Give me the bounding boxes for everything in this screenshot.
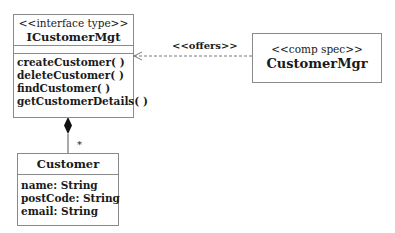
operation: deleteCustomer( ) bbox=[17, 69, 133, 82]
interface-name: ICustomerMgt bbox=[14, 30, 133, 44]
interface-stereotype: <<interface type>> bbox=[14, 17, 133, 30]
interface-attributes bbox=[14, 46, 133, 54]
attribute: postCode: String bbox=[21, 192, 118, 205]
offers-label: <<offers>> bbox=[172, 40, 238, 51]
component-name: CustomerMgr bbox=[253, 56, 381, 72]
interface-box: <<interface type>> ICustomerMgt createCu… bbox=[13, 14, 134, 118]
attribute: name: String bbox=[21, 179, 118, 192]
operation: createCustomer( ) bbox=[17, 56, 133, 69]
customer-attributes: name: String postCode: String email: Str… bbox=[18, 175, 118, 220]
multiplicity-label: * bbox=[77, 139, 82, 150]
attribute: email: String bbox=[21, 205, 118, 218]
interface-operations: createCustomer( ) deleteCustomer( ) find… bbox=[14, 54, 133, 110]
customer-name: Customer bbox=[18, 157, 118, 171]
component-stereotype: <<comp spec>> bbox=[253, 43, 381, 56]
component-box: <<comp spec>> CustomerMgr bbox=[252, 33, 382, 83]
operation: getCustomerDetails( ) bbox=[17, 95, 133, 108]
composition-diamond-icon bbox=[64, 117, 72, 134]
customer-box: Customer name: String postCode: String e… bbox=[17, 153, 119, 226]
operation: findCustomer( ) bbox=[17, 82, 133, 95]
